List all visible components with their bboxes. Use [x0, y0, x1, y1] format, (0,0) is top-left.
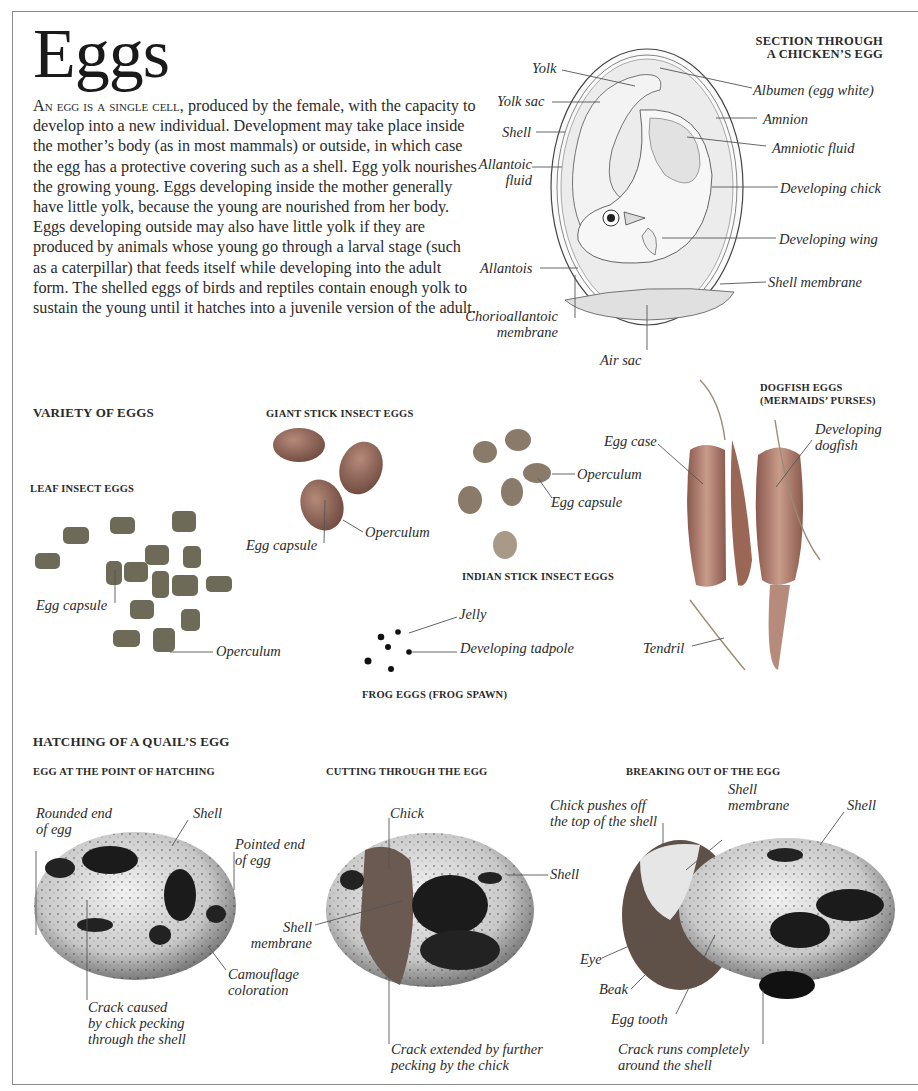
- chicken-egg-heading: SECTION THROUGH A CHICKEN’S EGG: [720, 35, 883, 61]
- stage1-rounded-line2: of egg: [36, 821, 112, 837]
- chicken-egg-heading-line2: A CHICKEN’S EGG: [720, 48, 883, 61]
- stage2-shell-label: Shell: [550, 866, 579, 882]
- label-allantois: Allantois: [480, 260, 532, 276]
- stage1-camouflage-label: Camouflagecoloration: [228, 966, 299, 998]
- label-developing-chick: Developing chick: [780, 180, 881, 196]
- dogfish-developing-line1: Developing: [815, 421, 882, 437]
- stage3-membrane-line1: Shell: [728, 781, 789, 797]
- dogfish-eggs-photo: [687, 380, 820, 670]
- stage3-pushes-line2: the top of the shell: [550, 813, 657, 829]
- stage3-eye-label: Eye: [580, 951, 602, 967]
- indian-stick-heading: INDIAN STICK INSECT EGGS: [462, 571, 614, 582]
- indian-stick-operculum-label: Operculum: [577, 466, 642, 482]
- stage1-pointed-end-label: Pointed endof egg: [235, 836, 305, 868]
- label-air-sac: Air sac: [600, 352, 641, 368]
- label-developing-wing: Developing wing: [779, 231, 878, 247]
- stage3-membrane-line2: membrane: [728, 797, 789, 813]
- stage2-crack-line2: pecking by the chick: [391, 1057, 543, 1073]
- dogfish-heading-line1: DOGFISH EGGS: [760, 381, 876, 394]
- label-amnion: Amnion: [763, 111, 808, 127]
- stage3-shell-label: Shell: [847, 797, 876, 813]
- stage3-pushes-line1: Chick pushes off: [550, 797, 657, 813]
- label-allantoic-fluid: Allantoicfluid: [462, 156, 532, 188]
- label-chorioallantoic-line2: membrane: [440, 324, 558, 340]
- quail-egg-hatching-photo: [34, 832, 236, 980]
- frog-heading: FROG EGGS (FROG SPAWN): [362, 689, 507, 700]
- label-allantoic-fluid-line2: fluid: [462, 172, 532, 188]
- stage1-pointed-line2: of egg: [235, 852, 305, 868]
- dogfish-developing-label: Developingdogfish: [815, 421, 882, 453]
- quail-egg-cut-photo: [326, 833, 534, 987]
- leaf-insect-eggs-photo: [35, 511, 232, 652]
- giant-stick-operculum-label: Operculum: [365, 524, 430, 540]
- stage1-crack-line3: through the shell: [88, 1031, 186, 1047]
- indian-stick-egg-capsule-label: Egg capsule: [551, 494, 622, 510]
- stage2-shell-membrane-label: Shellmembrane: [240, 919, 312, 951]
- dogfish-developing-line2: dogfish: [815, 437, 882, 453]
- stage1-camo-line1: Camouflage: [228, 966, 299, 982]
- stage2-chick-label: Chick: [390, 805, 424, 821]
- stage3-pushes-label: Chick pushes offthe top of the shell: [550, 797, 657, 829]
- label-chorioallantoic-membrane: Chorioallantoicmembrane: [440, 308, 558, 340]
- stage2-crack-label: Crack extended by furtherpecking by the …: [391, 1041, 543, 1073]
- leaf-insect-operculum-label: Operculum: [216, 643, 281, 659]
- stage1-crack-line2: by chick pecking: [88, 1015, 186, 1031]
- stage1-crack-label: Crack causedby chick peckingthrough the …: [88, 999, 186, 1047]
- giant-stick-heading: GIANT STICK INSECT EGGS: [266, 408, 413, 419]
- label-chorioallantoic-line1: Chorioallantoic: [440, 308, 558, 324]
- stage1-rounded-line1: Rounded end: [36, 805, 112, 821]
- label-shell: Shell: [502, 124, 531, 140]
- label-allantoic-fluid-line1: Allantoic: [462, 156, 532, 172]
- stage1-pointed-line1: Pointed end: [235, 836, 305, 852]
- label-amniotic-fluid: Amniotic fluid: [772, 140, 855, 156]
- stage3-crack-label: Crack runs completelyaround the shell: [618, 1041, 749, 1073]
- stage1-crack-line1: Crack caused: [88, 999, 186, 1015]
- stage2-crack-line1: Crack extended by further: [391, 1041, 543, 1057]
- dogfish-tendril-label: Tendril: [643, 640, 684, 656]
- stage1-shell-label: Shell: [193, 805, 222, 821]
- hatching-heading: HATCHING OF A QUAIL’S EGG: [33, 734, 230, 750]
- stage2-heading: CUTTING THROUGH THE EGG: [326, 766, 487, 777]
- dogfish-heading: DOGFISH EGGS (MERMAIDS’ PURSES): [760, 381, 876, 407]
- frog-eggs-photo: [365, 629, 412, 672]
- stage2-membrane-line2: membrane: [240, 935, 312, 951]
- dogfish-egg-case-label: Egg case: [604, 433, 657, 449]
- label-shell-membrane: Shell membrane: [768, 274, 862, 290]
- stage3-beak-label: Beak: [599, 981, 628, 997]
- label-albumen: Albumen (egg white): [753, 82, 874, 98]
- quail-egg-breaking-photo: [622, 838, 895, 999]
- variety-heading: VARIETY OF EGGS: [33, 405, 154, 421]
- giant-stick-egg-capsule-label: Egg capsule: [246, 537, 317, 553]
- leaf-insect-heading: LEAF INSECT EGGS: [30, 483, 134, 494]
- stage1-rounded-end-label: Rounded endof egg: [36, 805, 112, 837]
- stage3-heading: BREAKING OUT OF THE EGG: [626, 766, 780, 777]
- frog-jelly-label: Jelly: [459, 606, 486, 622]
- stage3-egg-tooth-label: Egg tooth: [611, 1011, 668, 1027]
- stage1-camo-line2: coloration: [228, 982, 299, 998]
- leaf-insect-egg-capsule-label: Egg capsule: [36, 597, 107, 613]
- label-yolk-sac: Yolk sac: [497, 93, 544, 109]
- stage2-membrane-line1: Shell: [240, 919, 312, 935]
- stage1-heading: EGG AT THE POINT OF HATCHING: [33, 766, 215, 777]
- label-yolk: Yolk: [532, 60, 556, 76]
- frog-tadpole-label: Developing tadpole: [460, 640, 574, 656]
- stage3-crack-line2: around the shell: [618, 1057, 749, 1073]
- stage3-crack-line1: Crack runs completely: [618, 1041, 749, 1057]
- dogfish-heading-line2: (MERMAIDS’ PURSES): [760, 394, 876, 407]
- stage3-shell-membrane-label: Shellmembrane: [728, 781, 789, 813]
